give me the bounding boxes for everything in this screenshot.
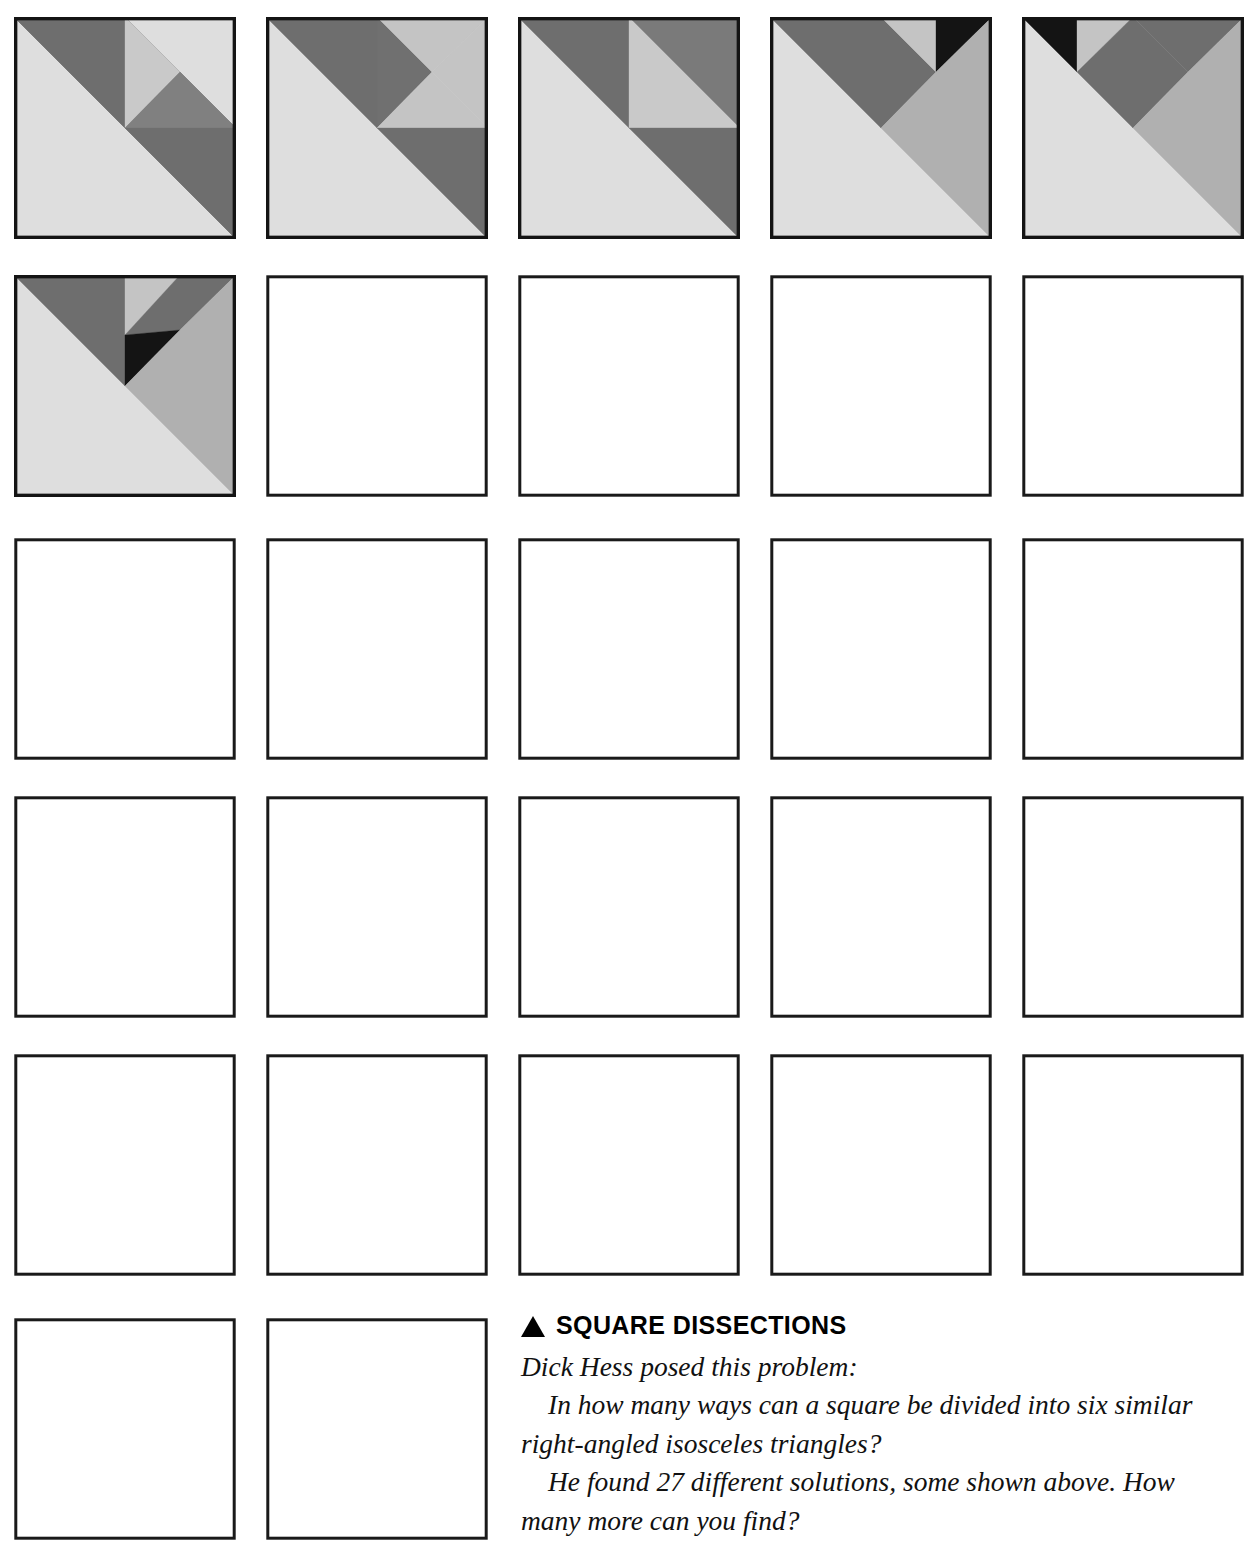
empty-square-outline [268,1056,486,1274]
square-dissections-page: SQUARE DISSECTIONS Dick Hess posed this … [0,0,1251,1553]
caption-block: SQUARE DISSECTIONS Dick Hess posed this … [521,1312,1237,1540]
square-dissection-2 [266,17,488,239]
empty-square-slot [14,538,236,760]
empty-square-outline [772,277,990,495]
empty-square-slot [518,538,740,760]
caption-heading: SQUARE DISSECTIONS [521,1312,1237,1340]
empty-square-slot [266,538,488,760]
empty-square-slot [266,1054,488,1276]
empty-square-outline [1024,277,1242,495]
empty-square-slot [770,538,992,760]
empty-square-outline [520,1056,738,1274]
empty-square-slot [518,275,740,497]
empty-square-outline [268,1320,486,1538]
empty-square-slot [518,1054,740,1276]
caption-heading-text: SQUARE DISSECTIONS [556,1312,847,1340]
empty-square-slot [1022,275,1244,497]
empty-square-outline [268,540,486,758]
empty-square-slot [518,796,740,1018]
empty-square-outline [16,798,234,1016]
empty-square-slot [1022,1054,1244,1276]
empty-square-outline [1024,1056,1242,1274]
empty-square-slot [266,275,488,497]
empty-square-slot [1022,796,1244,1018]
empty-square-slot [266,1318,488,1540]
square-dissection-4 [770,17,992,239]
square-dissection-3 [518,17,740,239]
empty-square-outline [1024,798,1242,1016]
empty-square-outline [16,1056,234,1274]
empty-square-outline [772,1056,990,1274]
empty-square-slot [1022,538,1244,760]
caption-question: In how many ways can a square be divided… [521,1386,1237,1463]
empty-square-outline [268,277,486,495]
triangle-up-icon [521,1316,545,1337]
caption-attribution: Dick Hess posed this problem: [521,1348,1237,1387]
empty-square-outline [520,798,738,1016]
empty-square-slot [770,275,992,497]
square-dissection-5 [1022,17,1244,239]
empty-square-outline [772,540,990,758]
empty-square-outline [520,540,738,758]
square-dissection-1 [14,17,236,239]
empty-square-outline [772,798,990,1016]
caption-answer: He found 27 different solutions, some sh… [521,1463,1237,1540]
empty-square-outline [16,540,234,758]
empty-square-slot [266,796,488,1018]
empty-square-slot [14,796,236,1018]
empty-square-outline [16,1320,234,1538]
empty-square-slot [770,1054,992,1276]
empty-square-slot [14,1054,236,1276]
empty-square-slot [14,1318,236,1540]
empty-square-outline [268,798,486,1016]
empty-square-outline [520,277,738,495]
empty-square-outline [1024,540,1242,758]
empty-square-slot [770,796,992,1018]
square-dissection-6 [14,275,236,497]
